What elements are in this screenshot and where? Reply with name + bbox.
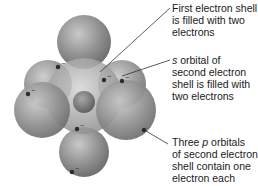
label-line: Three p orbitals (172, 136, 258, 148)
electron (26, 92, 30, 96)
svg-text:−: − (80, 122, 84, 129)
electron (120, 79, 124, 83)
label-line: shell contain one (172, 160, 258, 172)
svg-text:−: − (61, 60, 65, 67)
p-orbital-lobe-front-left (14, 82, 70, 138)
electron (142, 128, 146, 132)
label-line: electrons (172, 26, 258, 38)
leader-line-p-orbitals (146, 131, 168, 144)
nucleus-first-shell (73, 91, 95, 113)
p-orbital-lobe-bottom (59, 127, 109, 177)
label-line: of second electron (172, 148, 258, 160)
label-line: is filled with two (172, 14, 258, 26)
label-line: electron each (172, 172, 258, 184)
label-first-electron-shell: First electron shell is filled with two … (172, 2, 258, 38)
label-text: orbitals (208, 136, 245, 148)
label-p-orbitals: Three p orbitals of second electron shel… (172, 136, 258, 184)
svg-text:−: − (31, 87, 35, 94)
label-text: Three (172, 136, 202, 148)
label-line: First electron shell (172, 2, 258, 14)
label-line: two electrons (172, 90, 258, 102)
label-line: s orbital of (172, 54, 258, 66)
label-text: orbital of (177, 54, 220, 66)
svg-text:−: − (75, 165, 79, 172)
label-line: second electron (172, 66, 258, 78)
label-line: shell is filled with (172, 78, 258, 90)
electron (102, 78, 106, 82)
p-orbital-lobe-front-right (96, 80, 156, 140)
svg-text:−: − (107, 73, 111, 80)
electron (56, 65, 60, 69)
electron (75, 127, 79, 131)
electron (70, 170, 74, 174)
label-s-orbital: s orbital of second electron shell is fi… (172, 54, 258, 102)
